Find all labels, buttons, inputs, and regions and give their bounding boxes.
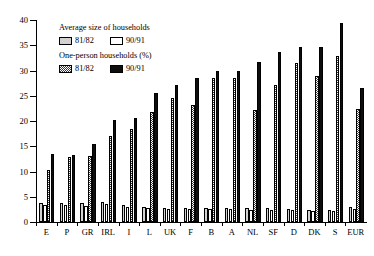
x-axis-label-p: P <box>57 228 78 237</box>
bar-avg91-gr <box>84 206 87 222</box>
x-axis-tick <box>98 222 99 226</box>
bar-avg91-p <box>64 205 67 222</box>
bar-one91-l <box>154 93 157 222</box>
x-axis-label-sf: SF <box>263 228 284 237</box>
bar-one81-eur <box>356 109 359 222</box>
bar-avg91-d <box>291 210 294 222</box>
bar-group <box>266 20 281 222</box>
bar-avg81-irl <box>101 202 104 222</box>
bar-avg81-s <box>328 210 331 222</box>
bar-one81-e <box>47 170 50 222</box>
household-statistics-bar-chart: 0510152025303540 EPGRIRLILUKFBANLSFDDKSE… <box>0 0 374 256</box>
bar-group <box>287 20 302 222</box>
bar-one91-eur <box>360 88 363 222</box>
bar-avg91-uk <box>167 209 170 222</box>
bar-one81-l <box>150 112 153 222</box>
bar-one91-uk <box>175 85 178 222</box>
legend-label-one-8182: 81/82 <box>75 64 94 73</box>
bar-one91-f <box>195 78 198 222</box>
bar-one91-b <box>216 71 219 222</box>
x-axis-tick <box>57 222 58 226</box>
x-axis-tick <box>325 222 326 226</box>
x-axis-label-dk: DK <box>304 228 325 237</box>
y-axis-tick-label: 40 <box>2 16 28 25</box>
bar-avg81-l <box>142 207 145 222</box>
x-axis-tick <box>263 222 264 226</box>
legend-label-avg-9091: 90/91 <box>126 36 145 45</box>
bar-one91-a <box>237 71 240 223</box>
legend-group2-title: One-person households (%) <box>59 50 209 61</box>
bar-avg91-s <box>332 211 335 222</box>
bar-one91-e <box>51 154 54 222</box>
bar-one81-nl <box>253 110 256 222</box>
legend-group2-row: 81/82 90/91 <box>59 62 209 75</box>
x-axis-label-l: L <box>139 228 160 237</box>
bar-one81-gr <box>88 156 91 222</box>
x-axis-label-d: D <box>284 228 305 237</box>
x-axis-tick <box>345 222 346 226</box>
x-axis-label-e: E <box>36 228 57 237</box>
x-axis-tick <box>242 222 243 226</box>
y-axis-tick-label: 10 <box>2 168 28 177</box>
bar-avg81-nl <box>245 208 248 222</box>
y-axis-tick-label: 0 <box>2 218 28 227</box>
bar-avg81-b <box>204 208 207 222</box>
bar-one91-s <box>340 23 343 222</box>
bar-avg91-l <box>146 208 149 222</box>
bar-avg81-p <box>60 203 63 222</box>
x-axis-label-f: F <box>180 228 201 237</box>
bar-avg81-sf <box>266 208 269 222</box>
x-axis-label-uk: UK <box>160 228 181 237</box>
x-axis-tick <box>304 222 305 226</box>
bar-group <box>245 20 260 222</box>
y-axis-tick-label: 15 <box>2 142 28 151</box>
bar-avg81-dk <box>307 210 310 222</box>
bar-avg81-f <box>184 208 187 222</box>
legend-group1-title: Average size of households <box>59 22 209 33</box>
x-axis-label-i: I <box>119 228 140 237</box>
x-axis-tick <box>201 222 202 226</box>
bar-one81-sf <box>274 85 277 222</box>
bar-avg81-eur <box>349 207 352 222</box>
bar-one91-gr <box>92 144 95 222</box>
bar-one81-uk <box>171 98 174 222</box>
bar-one81-b <box>212 78 215 222</box>
x-axis-tick <box>77 222 78 226</box>
x-axis-label-eur: EUR <box>345 228 366 237</box>
legend-swatch-avg-9091-icon <box>110 37 123 45</box>
bar-one81-dk <box>315 76 318 222</box>
bar-avg91-i <box>126 207 129 222</box>
bar-avg81-e <box>39 203 42 222</box>
bar-avg81-gr <box>80 203 83 222</box>
x-axis-tick <box>222 222 223 226</box>
x-axis-label-s: S <box>325 228 346 237</box>
bar-avg81-i <box>122 205 125 222</box>
bar-one91-sf <box>278 52 281 222</box>
bar-one91-d <box>299 47 302 222</box>
x-axis-tick <box>180 222 181 226</box>
x-axis-tick <box>36 222 37 226</box>
legend-label-one-9091: 90/91 <box>126 64 145 73</box>
bar-one81-s <box>336 56 339 222</box>
bar-group <box>328 20 343 222</box>
legend-swatch-one-8182-icon <box>59 65 72 73</box>
bar-avg91-eur <box>353 209 356 222</box>
x-axis-label-gr: GR <box>77 228 98 237</box>
bar-avg81-uk <box>163 208 166 222</box>
bar-one91-p <box>72 155 75 222</box>
y-axis-tick-label: 25 <box>2 92 28 101</box>
bar-avg81-a <box>225 208 228 222</box>
x-axis-label-nl: NL <box>242 228 263 237</box>
bar-group <box>225 20 240 222</box>
bar-one91-irl <box>113 120 116 223</box>
bar-one81-d <box>295 63 298 222</box>
bar-one91-i <box>134 118 137 222</box>
bar-one81-irl <box>109 136 112 222</box>
x-axis-label-irl: IRL <box>98 228 119 237</box>
bar-one91-dk <box>319 47 322 222</box>
legend-swatch-one-9091-icon <box>110 65 123 73</box>
x-axis-tick <box>160 222 161 226</box>
bar-avg91-irl <box>105 204 108 222</box>
bar-group <box>307 20 322 222</box>
x-axis-tick <box>284 222 285 226</box>
